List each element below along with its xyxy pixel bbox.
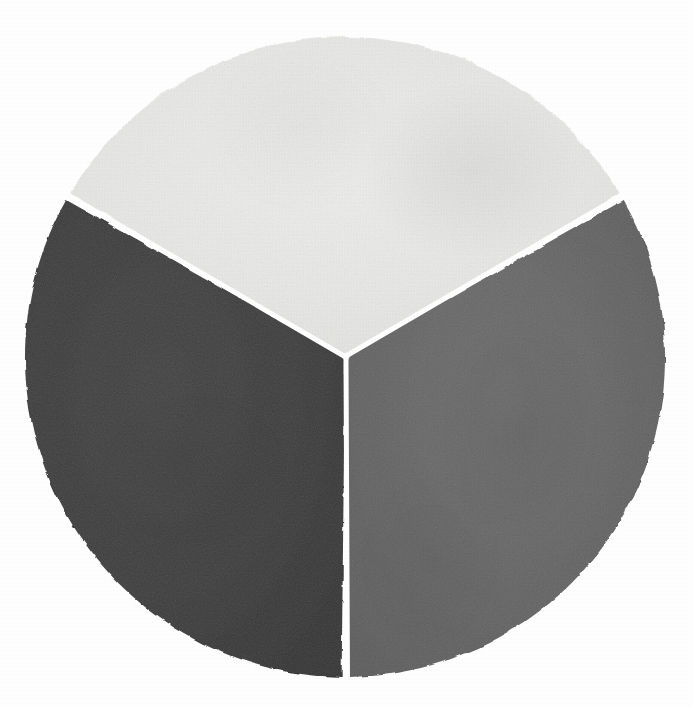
pie-chart-figure: Three-sector painted pie chart A circle … [0, 0, 693, 707]
pie-chart-svg [0, 0, 693, 707]
pie-center-point [343, 354, 350, 361]
divider-bottom [346, 360, 348, 683]
